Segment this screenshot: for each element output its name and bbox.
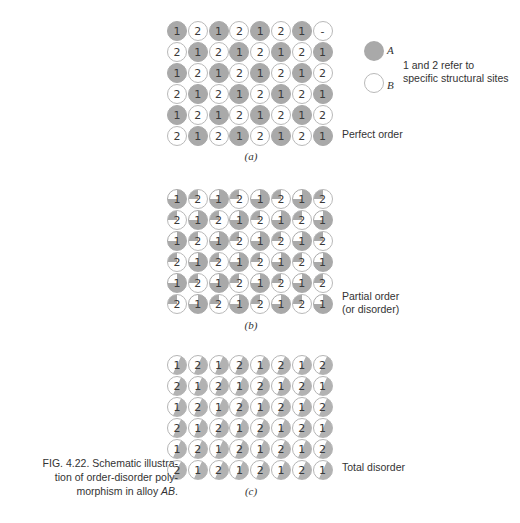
lattice-site: 1 bbox=[229, 42, 249, 62]
site-number: 2 bbox=[298, 215, 305, 226]
site-number: 1 bbox=[215, 360, 222, 371]
lattice-site: 1 bbox=[271, 460, 291, 480]
lattice-site: 1 bbox=[188, 84, 208, 104]
site-number: 2 bbox=[298, 465, 305, 476]
site-number: 1 bbox=[174, 444, 181, 455]
panel-total-disorder: 1212121221212121121212122121212112121212… bbox=[167, 355, 335, 481]
site-number: 1 bbox=[194, 299, 201, 310]
site-number: 2 bbox=[236, 402, 243, 413]
site-number: 2 bbox=[319, 68, 326, 79]
lattice-site: 2 bbox=[229, 105, 249, 125]
lattice-site: 2 bbox=[209, 210, 229, 230]
site-number: 1 bbox=[257, 444, 264, 455]
site-number: 1 bbox=[215, 444, 222, 455]
lattice-site: 2 bbox=[250, 84, 270, 104]
lattice-site: 1 bbox=[271, 210, 291, 230]
panel-label: (a) bbox=[167, 150, 335, 162]
site-number: 2 bbox=[298, 381, 305, 392]
lattice-site: 1 bbox=[250, 439, 270, 459]
site-number: 2 bbox=[215, 465, 222, 476]
site-number: 2 bbox=[194, 402, 201, 413]
lattice-site: 1 bbox=[313, 418, 333, 438]
site-number: 1 bbox=[319, 423, 326, 434]
lattice-site: 2 bbox=[167, 210, 187, 230]
site-number: 2 bbox=[194, 68, 201, 79]
site-number: 2 bbox=[319, 444, 326, 455]
site-number: 1 bbox=[278, 215, 285, 226]
site-number: 1 bbox=[298, 236, 305, 247]
site-number: 2 bbox=[278, 360, 285, 371]
site-number: 2 bbox=[215, 47, 222, 58]
lattice-site: 1 bbox=[188, 252, 208, 272]
site-number: 1 bbox=[174, 26, 181, 37]
lattice-site: 2 bbox=[271, 397, 291, 417]
site-number: 2 bbox=[278, 402, 285, 413]
site-number: 1 bbox=[319, 215, 326, 226]
lattice-site: 2 bbox=[167, 294, 187, 314]
lattice-site: 2 bbox=[250, 376, 270, 396]
site-number: 2 bbox=[215, 215, 222, 226]
site-number: 2 bbox=[298, 299, 305, 310]
site-number: 2 bbox=[236, 26, 243, 37]
site-number: 1 bbox=[278, 465, 285, 476]
site-number: 2 bbox=[174, 299, 181, 310]
lattice-site: 1 bbox=[313, 210, 333, 230]
site-number: 2 bbox=[298, 47, 305, 58]
lattice-site: 1 bbox=[167, 397, 187, 417]
site-number: 1 bbox=[236, 465, 243, 476]
lattice-site: 2 bbox=[292, 460, 312, 480]
lattice-site: 1 bbox=[167, 21, 187, 41]
site-number: 1 bbox=[174, 194, 181, 205]
site-number: 2 bbox=[174, 465, 181, 476]
site-number: 2 bbox=[174, 215, 181, 226]
lattice-site: 2 bbox=[209, 252, 229, 272]
lattice-site: 2 bbox=[229, 63, 249, 83]
site-number: 2 bbox=[174, 131, 181, 142]
lattice-site: 1 bbox=[209, 231, 229, 251]
lattice-site: 1 bbox=[229, 294, 249, 314]
site-number: 1 bbox=[236, 215, 243, 226]
lattice-site: 1 bbox=[209, 273, 229, 293]
site-number: 1 bbox=[236, 257, 243, 268]
site-number: 1 bbox=[298, 26, 305, 37]
lattice-site: 1 bbox=[209, 105, 229, 125]
lattice-site: 2 bbox=[188, 105, 208, 125]
site-number: 2 bbox=[257, 257, 264, 268]
site-number: 2 bbox=[174, 47, 181, 58]
site-number: 1 bbox=[215, 194, 222, 205]
site-number: 2 bbox=[194, 26, 201, 37]
lattice-site: 2 bbox=[313, 397, 333, 417]
site-number: 1 bbox=[319, 299, 326, 310]
site-number: 2 bbox=[215, 381, 222, 392]
site-number: 2 bbox=[278, 26, 285, 37]
lattice-site: 2 bbox=[209, 460, 229, 480]
site-number: 1 bbox=[174, 402, 181, 413]
state-label-total-disorder: Total disorder bbox=[342, 461, 405, 474]
site-number: 2 bbox=[194, 444, 201, 455]
panel-perfect-order: 1212121-21212121121212122121212112121212… bbox=[167, 21, 335, 147]
site-number: 2 bbox=[257, 423, 264, 434]
lattice-site: 2 bbox=[167, 84, 187, 104]
lattice-site: 1 bbox=[229, 376, 249, 396]
lattice-site: 2 bbox=[250, 252, 270, 272]
site-number: 1 bbox=[236, 381, 243, 392]
site-number: 2 bbox=[236, 194, 243, 205]
lattice-site: 1 bbox=[188, 126, 208, 146]
site-number: 1 bbox=[215, 278, 222, 289]
site-number: 2 bbox=[278, 278, 285, 289]
lattice-site: 1 bbox=[292, 439, 312, 459]
legend-b-label: B bbox=[387, 79, 394, 91]
lattice-site: 2 bbox=[292, 376, 312, 396]
lattice-site: 1 bbox=[313, 126, 333, 146]
lattice-site: 2 bbox=[271, 231, 291, 251]
site-number: 2 bbox=[257, 465, 264, 476]
site-number: 1 bbox=[215, 26, 222, 37]
site-number: 1 bbox=[298, 278, 305, 289]
lattice-site: 2 bbox=[250, 460, 270, 480]
lattice-site: 1 bbox=[313, 460, 333, 480]
lattice-grid: 1212121221212121121212122121212112121212… bbox=[167, 355, 335, 481]
lattice-site: 1 bbox=[229, 210, 249, 230]
lattice-site: 1 bbox=[313, 252, 333, 272]
state-label-partial-order: Partial order (or disorder) bbox=[342, 290, 399, 316]
site-number: 1 bbox=[298, 444, 305, 455]
